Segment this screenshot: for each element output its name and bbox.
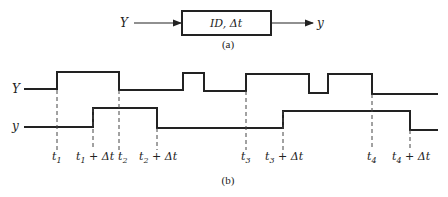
signal-y-label: y: [11, 119, 19, 133]
label-t4-plus-dt: t4 + Δt: [392, 150, 431, 165]
output-label: y: [316, 16, 324, 30]
label-t2: t2: [118, 150, 128, 165]
label-t1: t1: [52, 150, 62, 165]
time-labels: t1 t1 + Δt t2 t2 + Δt t3 t3 + Δt t4 t4 +…: [52, 150, 431, 165]
label-t1-plus-dt: t1 + Δt: [76, 150, 115, 165]
caption-a: (a): [222, 38, 235, 51]
signal-y-waveform: [24, 108, 438, 130]
block-label: ID, Δt: [209, 17, 243, 30]
input-label: Y: [120, 16, 129, 30]
time-markers: [57, 90, 410, 150]
label-t3: t3: [241, 150, 251, 165]
label-t3-plus-dt: t3 + Δt: [265, 150, 304, 165]
waveforms: Y y t1 t1 + Δt t2 t2 + Δt t3 t3 + Δt t4 …: [11, 72, 438, 187]
label-t2-plus-dt: t2 + Δt: [139, 150, 178, 165]
signal-Y-waveform: [24, 72, 438, 94]
label-t4: t4: [367, 150, 377, 165]
block-diagram: Y ID, Δt y (a): [120, 11, 324, 51]
signal-Y-label: Y: [12, 82, 21, 96]
caption-b: (b): [222, 174, 235, 187]
timing-diagram: Y ID, Δt y (a) Y y t1 t1 + Δt t2 t2 + Δt: [0, 0, 448, 197]
